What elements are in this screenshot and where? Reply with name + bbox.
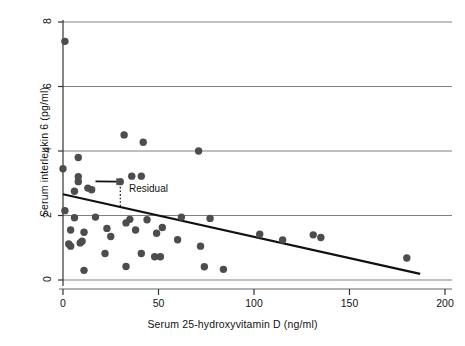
- regression-line: [63, 194, 420, 274]
- axis-lines-group: [59, 20, 452, 289]
- scatter-plot-canvas: [0, 0, 465, 346]
- x-tick-label-150: 150: [341, 297, 359, 309]
- data-point: [80, 267, 87, 274]
- data-point: [140, 139, 147, 146]
- data-point: [75, 154, 82, 161]
- y-tick-label-6: 6: [41, 79, 53, 93]
- data-point: [157, 253, 164, 260]
- data-point: [120, 131, 127, 138]
- data-point: [195, 147, 202, 154]
- data-point: [317, 234, 324, 241]
- data-point: [122, 219, 129, 226]
- data-point: [101, 250, 108, 257]
- data-point: [256, 231, 263, 238]
- y-tick-label-0: 0: [41, 272, 53, 286]
- data-point: [201, 263, 208, 270]
- gridlines-group: [63, 22, 452, 280]
- regression-line-path: [63, 194, 420, 274]
- x-tick-label-200: 200: [436, 297, 454, 309]
- data-point: [61, 38, 68, 45]
- data-point: [128, 172, 135, 179]
- y-tick-label-4: 4: [41, 143, 53, 157]
- data-point: [132, 226, 139, 233]
- data-point: [138, 172, 145, 179]
- data-point: [107, 233, 114, 240]
- data-point: [153, 230, 160, 237]
- x-tick-label-50: 50: [153, 297, 165, 309]
- data-point: [403, 254, 410, 261]
- y-tick-label-2: 2: [41, 208, 53, 222]
- data-point: [88, 186, 95, 193]
- data-point: [59, 165, 66, 172]
- data-point: [197, 242, 204, 249]
- data-point: [67, 226, 74, 233]
- data-points-group: [59, 38, 410, 274]
- data-point: [67, 242, 74, 249]
- x-tick-label-0: 0: [60, 297, 66, 309]
- data-point: [76, 239, 83, 246]
- tick-marks-group: [58, 22, 445, 295]
- data-point: [159, 224, 166, 231]
- data-point: [80, 229, 87, 236]
- data-point: [61, 207, 68, 214]
- chart-figure: Residual Serum 25-hydroxyvitamin D (ng/m…: [0, 0, 465, 346]
- y-tick-label-8: 8: [41, 14, 53, 28]
- data-point: [103, 225, 110, 232]
- data-point: [220, 266, 227, 273]
- data-point: [279, 236, 286, 243]
- x-tick-label-100: 100: [245, 297, 263, 309]
- data-point: [310, 231, 317, 238]
- data-point: [71, 188, 78, 195]
- data-point: [92, 213, 99, 220]
- data-point: [138, 250, 145, 257]
- data-point: [75, 178, 82, 185]
- data-point: [117, 178, 124, 185]
- data-point: [178, 213, 185, 220]
- data-point: [122, 263, 129, 270]
- data-point: [206, 215, 213, 222]
- x-axis-title: Serum 25-hydroxyvitamin D (ng/ml): [0, 318, 465, 330]
- data-point: [143, 216, 150, 223]
- data-point: [174, 236, 181, 243]
- residual-annotation-label: Residual: [129, 183, 168, 194]
- data-point: [71, 214, 78, 221]
